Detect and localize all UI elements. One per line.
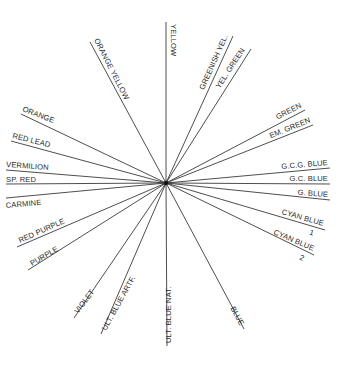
label-g-c-blue: G.C. BLUE bbox=[290, 174, 328, 183]
label-orange-yellow: ORANGE YELLOW bbox=[92, 37, 131, 102]
label-cyan-blue-1: CYAN BLUE bbox=[281, 207, 325, 228]
spoke-orange-yellow bbox=[90, 42, 166, 183]
label-orange: ORANGE bbox=[21, 104, 56, 124]
label-sub-cyan-blue-1: 1 bbox=[308, 228, 315, 238]
label-purple: PURPLE bbox=[29, 244, 60, 267]
label-yellow: YELLOW bbox=[169, 24, 178, 57]
color-circle-diagram: YELLOWORANGE YELLOWGREENISH YEL.YEL. GRE… bbox=[0, 0, 351, 368]
label-ult-blue-artf: ULT. BLUE ARTF. bbox=[100, 274, 138, 332]
spoke-carmine bbox=[6, 183, 166, 198]
label-red-purple: RED PURPLE bbox=[17, 216, 66, 244]
center-hub bbox=[164, 181, 168, 185]
label-sub-cyan-blue-2: 2 bbox=[298, 253, 306, 263]
label-blue: BLUE bbox=[228, 305, 246, 327]
label-violet: VIOLET bbox=[72, 288, 96, 316]
spoke-g-c-blue bbox=[166, 183, 330, 184]
label-carmine: CARMINE bbox=[5, 198, 41, 210]
label-ult-blue-nat: ULT. BLUE NAT. bbox=[164, 287, 173, 343]
label-sp-red: SP. RED bbox=[6, 175, 37, 184]
